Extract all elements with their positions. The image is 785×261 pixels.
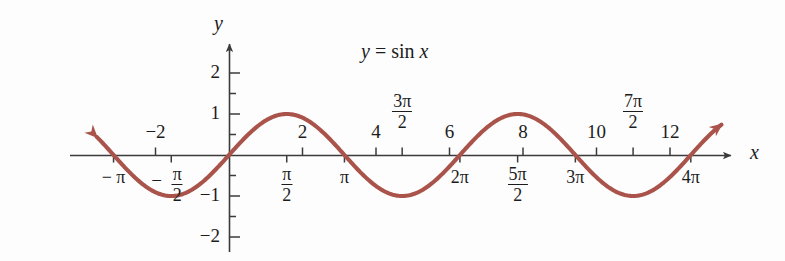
x-tick-label-4: 4 [371, 122, 381, 141]
x-axis-label: x [750, 141, 759, 164]
sine-graph-figure: y x y = sin x −224681012− ππ2−π2π2π5π23π… [0, 0, 785, 261]
x-tick-label-pi-fraction: 3π2 [391, 92, 413, 132]
fraction-denominator: 2 [391, 113, 413, 131]
x-tick-label-pi: 3π [566, 168, 584, 186]
y-tick-label-2: 2 [211, 62, 221, 81]
fraction-denominator: 2 [280, 186, 293, 204]
x-tick-label-pi-fraction: π2 [171, 165, 184, 205]
x-tick-label-pi-fraction: 7π2 [622, 92, 644, 132]
x-tick-label-pi: π [340, 168, 349, 186]
y-tick-label-1: 1 [211, 103, 221, 122]
y-tick-label--1: −1 [200, 185, 220, 204]
fraction-denominator: 2 [171, 186, 184, 204]
x-tick-label-pi: 4π [682, 168, 700, 186]
x-tick-label-pi: 2π [451, 168, 469, 186]
x-tick-label-2: 2 [298, 122, 308, 141]
fraction-numerator: π [280, 165, 293, 183]
x-tick-label-negative-sign: − [151, 170, 162, 192]
equation-function: sin [391, 40, 414, 62]
x-tick-label-6: 6 [445, 122, 455, 141]
x-tick-label-10: 10 [587, 122, 606, 141]
fraction-numerator: 7π [622, 92, 644, 110]
axis-lines [70, 44, 731, 252]
x-tick-label-pi: − π [102, 168, 126, 186]
x-tick-label-pi-fraction: 5π2 [507, 165, 529, 205]
fraction-denominator: 2 [507, 186, 529, 204]
equation-lhs: y [361, 40, 370, 62]
x-tick-label-−2: −2 [145, 122, 165, 141]
x-tick-label-12: 12 [661, 122, 680, 141]
equation-equals: = [375, 40, 386, 62]
fraction-denominator: 2 [622, 113, 644, 131]
y-axis-label: y [214, 12, 223, 35]
equation-argument: x [420, 40, 429, 62]
curve-equation-label: y = sin x [361, 40, 428, 63]
fraction-numerator: π [171, 165, 184, 183]
x-tick-label-8: 8 [518, 122, 528, 141]
fraction-numerator: 5π [507, 165, 529, 183]
y-tick-label--2: −2 [200, 226, 220, 245]
fraction-numerator: 3π [391, 92, 413, 110]
x-tick-label-pi-fraction: π2 [280, 165, 293, 205]
